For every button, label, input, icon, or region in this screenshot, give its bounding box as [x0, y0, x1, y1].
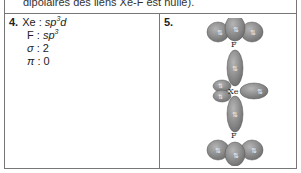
sigma-label: σ: [27, 42, 34, 54]
f-label: F: [27, 29, 34, 41]
svg-text:⇅: ⇅: [257, 88, 263, 96]
top-fluorine-lone-pairs: ⇅ ⇅ ⇅: [207, 18, 263, 42]
svg-text:⇅: ⇅: [218, 93, 223, 100]
hyb-sup: 3: [55, 28, 59, 35]
top-text: dipolaires des liens Xe-F est nulle).: [23, 0, 194, 8]
xe-label: Xe: [22, 16, 35, 28]
bottom-f-atom-label: F: [231, 131, 237, 140]
answer-cell-5: 5. ⇅ ⇅ ⇅ F: [160, 14, 297, 169]
svg-text:⇅: ⇅: [217, 29, 223, 37]
item-number: 4.: [9, 16, 18, 28]
svg-text:⇅: ⇅: [232, 111, 238, 119]
xef2-orbital-diagram: ⇅ ⇅ ⇅ F ⇅ ⇅ ⇅ ⇅ Xe ⇅ F: [200, 18, 270, 166]
bottom-fluorine-lone-pairs: ⇅ ⇅ ⇅: [207, 140, 263, 166]
svg-text:⇅: ⇅: [233, 152, 239, 160]
svg-text:⇅: ⇅: [250, 29, 256, 37]
hyb-base: sp: [43, 29, 55, 41]
pi-value: 0: [44, 55, 50, 67]
separator: :: [34, 42, 43, 54]
hyb-tail: d: [60, 16, 66, 28]
xe-atom-label: Xe: [228, 87, 239, 96]
svg-text:⇅: ⇅: [233, 26, 239, 34]
svg-text:⇅: ⇅: [218, 82, 223, 89]
svg-text:⇅: ⇅: [232, 65, 238, 73]
top-f-atom-label: F: [231, 40, 237, 49]
separator: :: [34, 29, 43, 41]
previous-answer-text: dipolaires des liens Xe-F est nulle).: [4, 0, 297, 13]
separator: :: [34, 55, 43, 67]
f-hybridization: sp3: [43, 29, 59, 41]
item-number: 5.: [164, 16, 173, 28]
svg-text:⇅: ⇅: [251, 147, 257, 155]
answer-table: 4.Xe : sp3d F : sp3 σ : 2 π : 0 5.: [4, 13, 297, 169]
xe-hybridization: sp3d: [45, 16, 67, 28]
sigma-value: 2: [43, 42, 49, 54]
svg-text:⇅: ⇅: [215, 147, 221, 155]
answer-cell-4: 4.Xe : sp3d F : sp3 σ : 2 π : 0: [5, 14, 160, 169]
xe-lone-pair-lobe: [240, 83, 268, 99]
hyb-base: sp: [45, 16, 57, 28]
separator: :: [36, 16, 45, 28]
